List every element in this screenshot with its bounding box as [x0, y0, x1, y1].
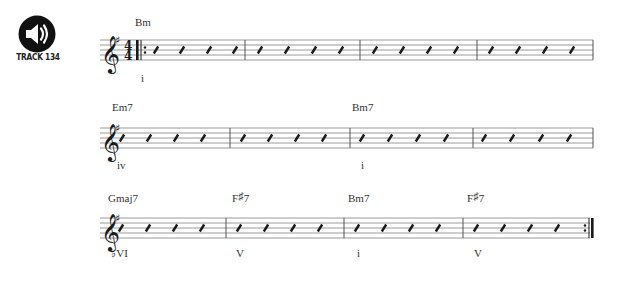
- chord-suffix: 7: [244, 192, 250, 204]
- repeat-start-thick-bar: [136, 40, 139, 60]
- repeat-dot: [584, 224, 586, 226]
- time-signature-bottom: 4: [124, 49, 132, 63]
- chord-root: Bm7: [348, 192, 369, 204]
- chord-root: Bm: [135, 16, 151, 28]
- roman-numeral: V: [474, 247, 482, 259]
- roman-numeral: i: [357, 247, 360, 259]
- chord-symbol: Bm: [135, 16, 151, 28]
- chord-symbol: Bm7: [352, 101, 373, 113]
- chord-root: Gmaj7: [108, 192, 138, 204]
- sharp-icon: ♯: [238, 190, 244, 202]
- chord-symbol: F♯7: [467, 192, 484, 204]
- repeat-dot: [144, 46, 146, 48]
- key-signature-sharp-icon: ♯: [115, 34, 120, 47]
- roman-numeral: V: [236, 247, 244, 259]
- chord-symbol: Gmaj7: [108, 192, 138, 204]
- roman-numeral: iv: [117, 159, 126, 171]
- roman-numeral: i: [361, 159, 364, 171]
- key-signature-sharp-icon: ♯: [115, 212, 120, 225]
- sharp-icon: ♯: [473, 190, 479, 202]
- repeat-dot: [144, 51, 146, 53]
- staff-system-3: 𝄞♯: [100, 212, 594, 252]
- lead-sheet: TRACK 134 𝄞♯44𝄞♯𝄞♯ BmiEm7Bm7iviGmaj7F♯7B…: [0, 0, 617, 287]
- chord-suffix: 7: [479, 192, 485, 204]
- roman-numeral: ♭VI: [111, 247, 128, 260]
- staff-systems: 𝄞♯44𝄞♯𝄞♯: [0, 0, 617, 287]
- chord-symbol: Em7: [112, 101, 133, 113]
- staff-system-2: 𝄞♯: [100, 122, 593, 162]
- repeat-end-thick-bar: [591, 218, 594, 238]
- chord-symbol: Bm7: [348, 192, 369, 204]
- chord-root: Em7: [112, 101, 133, 113]
- staff-system-1: 𝄞♯44: [100, 34, 593, 74]
- roman-numeral: i: [141, 72, 144, 84]
- key-signature-sharp-icon: ♯: [115, 122, 120, 135]
- repeat-dot: [584, 229, 586, 231]
- chord-root: Bm7: [352, 101, 373, 113]
- chord-symbol: F♯7: [232, 192, 249, 204]
